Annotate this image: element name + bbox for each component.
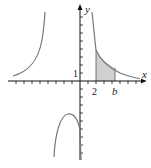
x-axis-label: x — [141, 68, 147, 80]
middle-branch-curve — [54, 114, 80, 157]
left-branch-curve — [13, 12, 45, 76]
y-axis-label: y — [84, 3, 90, 15]
y-tick-label-1: 1 — [73, 68, 78, 79]
x-tick-label-b: b — [112, 85, 118, 97]
x-tick-label-2: 2 — [92, 86, 97, 97]
function-graph: x y 1 2 b — [0, 0, 151, 168]
y-axis-arrow-icon — [78, 4, 83, 10]
